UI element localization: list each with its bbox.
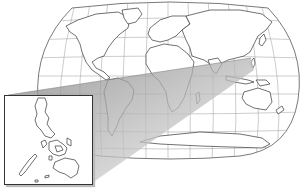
map-figure: World map with Philippines inset xyxy=(0,0,303,190)
mindoro xyxy=(41,140,47,148)
philippines-map xyxy=(5,96,92,184)
luzon xyxy=(35,98,55,138)
philippines-inset: Philippines enlarged xyxy=(4,95,93,185)
palawan xyxy=(19,154,37,176)
mindanao xyxy=(53,158,79,178)
